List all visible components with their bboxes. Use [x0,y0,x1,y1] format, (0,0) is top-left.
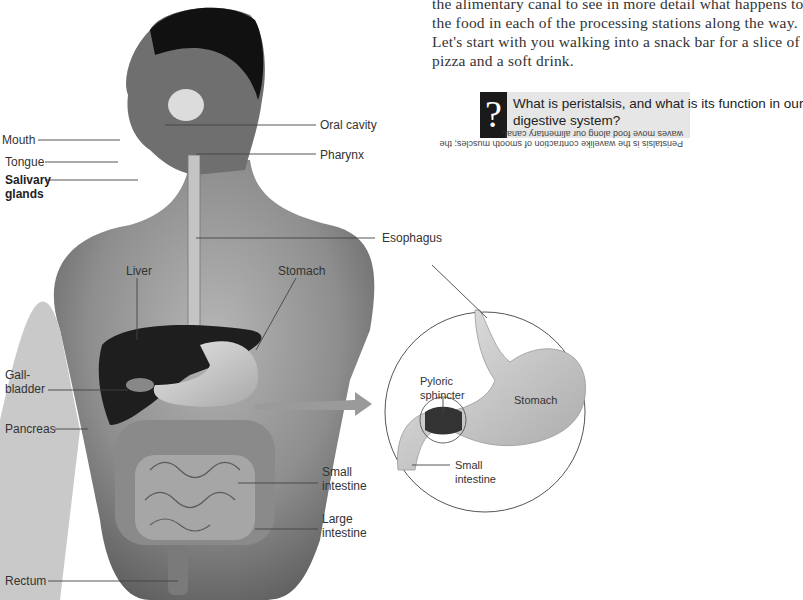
body-line: the food in each of the processing stati… [432,13,692,32]
label-line: sphincter [420,388,465,402]
label-rectum: Rectum [5,574,46,588]
label-salivary-glands: Salivary glands [5,173,51,201]
label-stomach: Stomach [278,264,325,278]
label-line: Large [322,512,367,526]
label-line: intestine [322,479,367,493]
label-line: Small [455,458,496,472]
question-text: What is peristalsis, and what is its fun… [513,95,803,129]
head [126,8,265,175]
label-line: Pyloric [420,374,465,388]
upside-down-answer: Peristalsis is the wavelike contraction … [513,129,683,149]
label-esophagus: Esophagus [382,231,442,245]
label-pharynx: Pharynx [320,148,364,162]
gallbladder [126,378,154,392]
label-line: intestine [322,526,367,540]
label-line: glands [5,187,51,201]
body-line: the alimentary canal to see in more deta… [432,0,692,13]
question-line: What is peristalsis, and what is its fun… [513,95,803,112]
body-line: Let's start with you walking into a snac… [432,32,692,51]
label-inset-stomach: Stomach [514,393,557,407]
label-gallbladder: Gall- bladder [5,368,45,396]
label-mouth: Mouth [2,133,35,147]
label-large-intestine: Large intestine [322,512,367,540]
label-line: bladder [5,382,45,396]
label-line: intestine [455,472,496,486]
label-pancreas: Pancreas [5,422,56,436]
label-liver: Liver [126,264,152,278]
label-inset-small-intestine: Small intestine [455,458,496,486]
body-paragraph: the alimentary canal to see in more deta… [432,0,692,70]
answer-line: Peristalsis is the wavelike contraction … [513,139,683,149]
body-line: pizza and a soft drink. [432,51,692,70]
label-line: Salivary [5,173,51,187]
label-tongue: Tongue [5,155,44,169]
label-small-intestine: Small intestine [322,465,367,493]
question-line: digestive system? [513,112,803,129]
answer-line: waves move food along our alimentary can… [513,129,683,139]
label-oral-cavity: Oral cavity [320,118,377,132]
esophagus-tube [188,155,200,335]
label-pyloric-sphincter: Pyloric sphincter [420,374,465,402]
label-line: Gall- [5,368,45,382]
label-line: Small [322,465,367,479]
